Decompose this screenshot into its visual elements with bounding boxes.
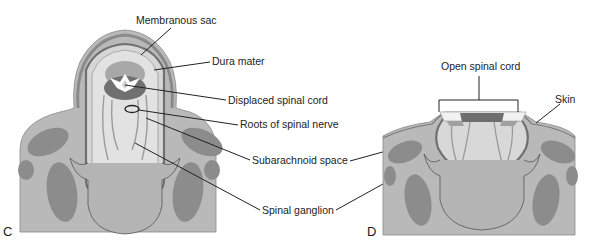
diagram-canvas: Membranous sac Dura mater Displaced spin… — [0, 0, 589, 252]
label-subarachnoid-space: Subarachnoid space — [252, 154, 348, 166]
panel-c-illustration — [18, 30, 227, 234]
label-displaced-spinal-cord: Displaced spinal cord — [228, 94, 328, 106]
label-roots-of-spinal-nerve: Roots of spinal nerve — [240, 118, 339, 130]
label-open-spinal-cord: Open spinal cord — [441, 60, 521, 72]
panel-d-illustration — [383, 112, 578, 235]
displaced-spinal-cord — [104, 61, 146, 100]
muscle — [18, 160, 34, 180]
panel-label-c: C — [3, 224, 12, 239]
label-spinal-ganglion: Spinal ganglion — [262, 204, 334, 216]
panel-label-d: D — [367, 224, 376, 239]
label-membranous-sac: Membranous sac — [136, 14, 217, 26]
open-cord-bracket — [439, 76, 518, 112]
muscle — [384, 166, 396, 186]
label-skin: Skin — [555, 93, 576, 105]
label-dura-mater: Dura mater — [212, 55, 265, 67]
muscle — [204, 160, 220, 180]
muscle — [566, 166, 578, 186]
skin-leader — [536, 104, 560, 123]
